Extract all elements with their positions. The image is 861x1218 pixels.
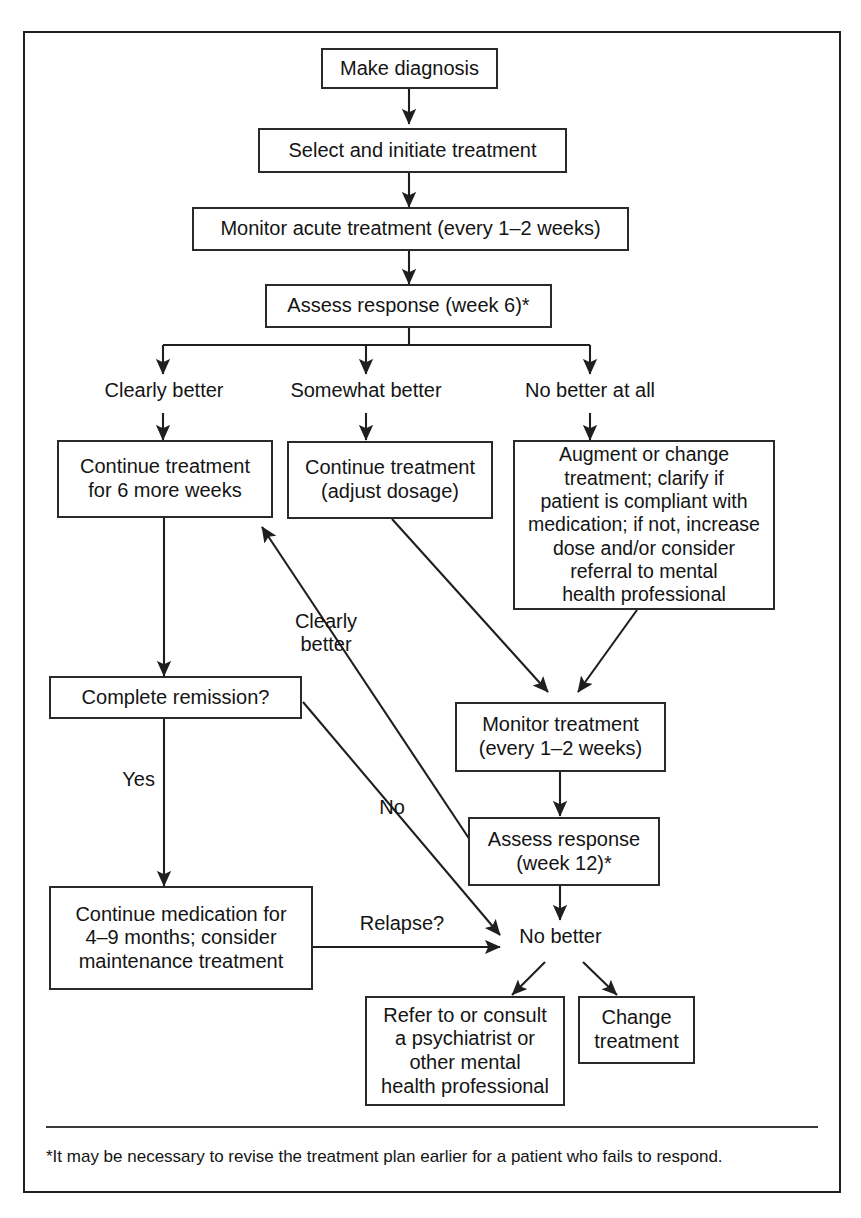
node-assess-response-week12: Assess response (week 12)* (468, 817, 660, 886)
node-change-treatment: Change treatment (578, 996, 695, 1064)
node-monitor-acute-treatment: Monitor acute treatment (every 1–2 weeks… (192, 207, 629, 251)
node-augment-or-change-treatment: Augment or change treatment; clarify if … (513, 440, 775, 610)
edge-label-no: No (367, 796, 417, 819)
footnote-text: *It may be necessary to revise the treat… (46, 1147, 836, 1167)
node-select-and-initiate-treatment: Select and initiate treatment (258, 128, 567, 173)
node-complete-remission: Complete remission? (49, 676, 302, 719)
node-make-diagnosis: Make diagnosis (321, 48, 498, 89)
node-refer-to-or-consult-psychiatrist: Refer to or consult a psychiatrist or ot… (365, 996, 565, 1106)
branch-label-no-better-at-all: No better at all (500, 379, 680, 402)
edge-label-relapse: Relapse? (327, 912, 477, 935)
label-no-better: No better (497, 925, 624, 948)
node-continue-treatment-adjust-dosage: Continue treatment (adjust dosage) (287, 441, 493, 519)
node-assess-response-week6: Assess response (week 6)* (265, 284, 552, 328)
branch-label-clearly-better: Clearly better (78, 379, 250, 402)
node-monitor-treatment-every-1-2-weeks: Monitor treatment (every 1–2 weeks) (455, 702, 666, 772)
figure-canvas: Make diagnosis Select and initiate treat… (0, 0, 861, 1218)
node-continue-medication-4-9-months: Continue medication for 4–9 months; cons… (49, 886, 313, 990)
edge-label-yes: Yes (95, 768, 155, 791)
footnote-divider (46, 1126, 818, 1128)
node-continue-treatment-6-more-weeks: Continue treatment for 6 more weeks (57, 440, 273, 518)
edge-label-clearly-better-return: Clearly better (271, 610, 381, 656)
branch-label-somewhat-better: Somewhat better (272, 379, 460, 402)
